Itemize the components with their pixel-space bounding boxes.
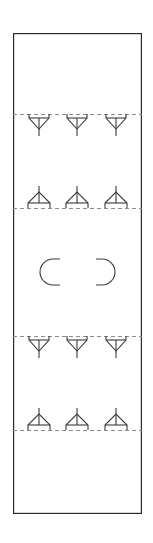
outer-rectangle-frame: [14, 34, 142, 514]
drawing-svg: [0, 0, 153, 543]
technical-drawing-canvas: Vertical Plan Strip: [0, 0, 153, 543]
